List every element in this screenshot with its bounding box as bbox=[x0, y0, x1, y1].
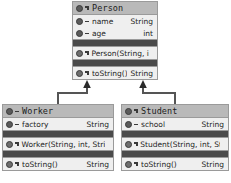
method-icon bbox=[6, 141, 13, 148]
method-row-student-tostring[interactable]: toString() String bbox=[122, 158, 228, 170]
constructor-row-worker[interactable]: Worker(String, int, String) bbox=[3, 138, 113, 150]
member-type: String bbox=[87, 120, 109, 129]
member-name: toString() bbox=[141, 160, 198, 169]
section-separator bbox=[3, 150, 113, 158]
member-type: String bbox=[131, 17, 153, 26]
member-type: String bbox=[202, 160, 224, 169]
inherit-marker-icon bbox=[134, 109, 138, 113]
uml-class-worker[interactable]: Worker factory String Worker(String, int… bbox=[2, 104, 114, 171]
private-marker-icon bbox=[134, 122, 138, 126]
field-row-worker-factory[interactable]: factory String bbox=[3, 118, 113, 130]
inherit-marker-icon bbox=[134, 142, 137, 146]
constructor-row-person[interactable]: Person(String, int) bbox=[73, 47, 157, 59]
method-icon bbox=[125, 161, 132, 168]
field-row-student-school[interactable]: school String bbox=[122, 118, 228, 130]
member-type: int bbox=[143, 29, 153, 38]
private-marker-icon bbox=[15, 109, 19, 113]
uml-class-person[interactable]: Person name String age int Person(String… bbox=[72, 1, 158, 80]
class-icon bbox=[76, 5, 83, 12]
field-row-person-age[interactable]: age int bbox=[73, 27, 157, 39]
method-icon bbox=[125, 141, 132, 148]
field-row-person-name[interactable]: name String bbox=[73, 15, 157, 27]
private-marker-icon bbox=[85, 19, 89, 23]
arrowhead-worker-to-person bbox=[83, 80, 91, 88]
class-icon bbox=[6, 108, 13, 115]
member-name: Student(String, int, String) bbox=[140, 140, 220, 149]
member-name: school bbox=[141, 120, 198, 129]
member-name: toString() bbox=[22, 160, 83, 169]
class-header-student[interactable]: Student bbox=[122, 105, 228, 118]
class-header-person[interactable]: Person bbox=[73, 2, 157, 15]
member-name: name bbox=[92, 17, 127, 26]
inherit-marker-icon bbox=[85, 51, 88, 55]
edge-worker-extends-person bbox=[58, 85, 87, 104]
method-icon bbox=[76, 50, 83, 57]
inherit-marker-icon bbox=[15, 142, 18, 146]
member-name: factory bbox=[22, 120, 83, 129]
method-row-person-tostring[interactable]: toString() String bbox=[73, 67, 157, 79]
member-name: Worker(String, int, String) bbox=[21, 140, 105, 149]
inherit-marker-icon bbox=[85, 71, 89, 75]
class-name-worker: Worker bbox=[22, 106, 53, 116]
private-marker-icon bbox=[85, 31, 89, 35]
member-name: Person(String, int) bbox=[91, 49, 149, 58]
arrowhead-student-to-person bbox=[139, 80, 147, 88]
member-type: String bbox=[87, 160, 109, 169]
edge-student-extends-person bbox=[143, 85, 175, 104]
field-icon bbox=[125, 121, 132, 128]
member-name: toString() bbox=[92, 69, 127, 78]
field-icon bbox=[76, 30, 83, 37]
field-icon bbox=[6, 121, 13, 128]
private-marker-icon bbox=[15, 122, 19, 126]
class-name-person: Person bbox=[92, 3, 123, 13]
inherit-marker-icon bbox=[15, 162, 19, 166]
member-type: String bbox=[131, 69, 153, 78]
field-icon bbox=[76, 18, 83, 25]
section-separator bbox=[3, 130, 113, 138]
class-icon bbox=[125, 108, 132, 115]
inherit-marker-icon bbox=[85, 6, 89, 10]
diagram-canvas[interactable]: Person name String age int Person(String… bbox=[0, 0, 231, 183]
class-header-worker[interactable]: Worker bbox=[3, 105, 113, 118]
section-separator bbox=[73, 59, 157, 67]
method-icon bbox=[6, 161, 13, 168]
section-separator bbox=[122, 130, 228, 138]
method-row-worker-tostring[interactable]: toString() String bbox=[3, 158, 113, 170]
member-type: String bbox=[202, 120, 224, 129]
inherit-marker-icon bbox=[134, 162, 138, 166]
member-name: age bbox=[92, 29, 139, 38]
method-icon bbox=[76, 70, 83, 77]
constructor-row-student[interactable]: Student(String, int, String) bbox=[122, 138, 228, 150]
section-separator bbox=[73, 39, 157, 47]
class-name-student: Student bbox=[141, 106, 178, 116]
uml-class-student[interactable]: Student school String Student(String, in… bbox=[121, 104, 229, 171]
section-separator bbox=[122, 150, 228, 158]
